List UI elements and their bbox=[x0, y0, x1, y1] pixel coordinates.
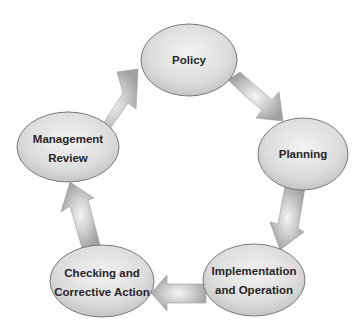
node-planning: Planning bbox=[258, 118, 348, 190]
node-management-label-line1: Management bbox=[33, 133, 103, 145]
node-planning-label: Planning bbox=[279, 148, 328, 160]
node-implementation-label-line1: Implementation bbox=[212, 265, 297, 277]
arrow-policy-to-planning bbox=[228, 72, 283, 121]
node-management-review: Management Review bbox=[17, 112, 119, 182]
node-implementation-label-line2: and Operation bbox=[215, 284, 293, 296]
node-checking-label-line1: Checking and bbox=[64, 267, 139, 279]
node-management-label-line2: Review bbox=[48, 152, 88, 164]
pdca-cycle-diagram: Policy Planning Implementation and Opera… bbox=[0, 0, 362, 331]
node-policy: Policy bbox=[141, 24, 237, 96]
node-checking: Checking and Corrective Action bbox=[50, 245, 154, 317]
arrow-planning-to-implementation bbox=[270, 186, 305, 250]
node-policy-label: Policy bbox=[172, 54, 206, 66]
node-checking-label-line2: Corrective Action bbox=[54, 286, 149, 298]
arrow-implementation-to-checking bbox=[151, 275, 206, 311]
node-implementation: Implementation and Operation bbox=[203, 244, 305, 316]
arrow-checking-to-management bbox=[61, 182, 100, 248]
